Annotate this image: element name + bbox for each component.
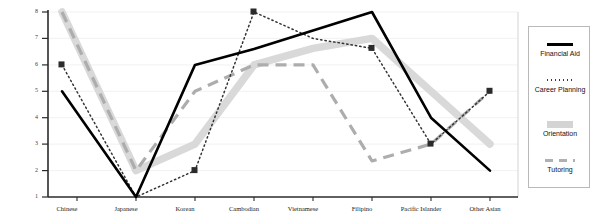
legend-item-financial-aid[interactable]: Financial Aid bbox=[529, 39, 591, 59]
x-tick-label-chinese: Chinese bbox=[37, 205, 97, 212]
x-tick-label-pacific-islander: Pacific Islander bbox=[391, 205, 451, 212]
y-tick-label: 8 bbox=[22, 8, 38, 14]
legend-item-tutoring[interactable]: Tutoring bbox=[529, 155, 591, 175]
x-tick-label-other-asian: Other Asian bbox=[455, 205, 515, 212]
thick-band-swatch bbox=[529, 119, 591, 129]
y-tick-label: 5 bbox=[22, 87, 38, 93]
legend-item-career-planning[interactable]: Career Planning bbox=[529, 75, 591, 95]
x-tick-label-japanese: Japanese bbox=[96, 205, 156, 212]
dashed-line-swatch bbox=[529, 155, 591, 165]
y-tick-label: 2 bbox=[22, 167, 38, 173]
line-chart: 8 7 6 5 4 3 2 1 Chinese Japanese Korean … bbox=[0, 0, 594, 220]
x-tick-label-vietnamese: Vietnamese bbox=[273, 205, 333, 212]
chart-legend: Financial Aid Career Planning Orientatio… bbox=[528, 26, 590, 188]
gridlines bbox=[48, 12, 518, 171]
legend-label: Orientation bbox=[529, 130, 591, 139]
chart-plot-area bbox=[0, 0, 594, 220]
y-tick-label: 3 bbox=[22, 140, 38, 146]
y-tick-label: 6 bbox=[22, 61, 38, 67]
x-tick-label-korean: Korean bbox=[155, 205, 215, 212]
series-line-financial-aid bbox=[62, 12, 490, 197]
legend-label: Financial Aid bbox=[529, 50, 591, 59]
legend-label: Career Planning bbox=[529, 86, 591, 95]
x-tick-label-filipino: Filipino bbox=[332, 205, 392, 212]
y-axis-ticks bbox=[42, 12, 48, 197]
series-line-career-planning bbox=[62, 12, 490, 197]
legend-item-orientation[interactable]: Orientation bbox=[529, 119, 591, 139]
y-tick-label: 7 bbox=[22, 34, 38, 40]
y-tick-label: 1 bbox=[22, 193, 38, 199]
x-tick-label-cambodian: Cambodian bbox=[214, 205, 274, 212]
legend-label: Tutoring bbox=[529, 166, 591, 175]
solid-line-swatch bbox=[529, 39, 591, 49]
dotted-line-swatch bbox=[529, 75, 591, 85]
y-tick-label: 4 bbox=[22, 114, 38, 120]
